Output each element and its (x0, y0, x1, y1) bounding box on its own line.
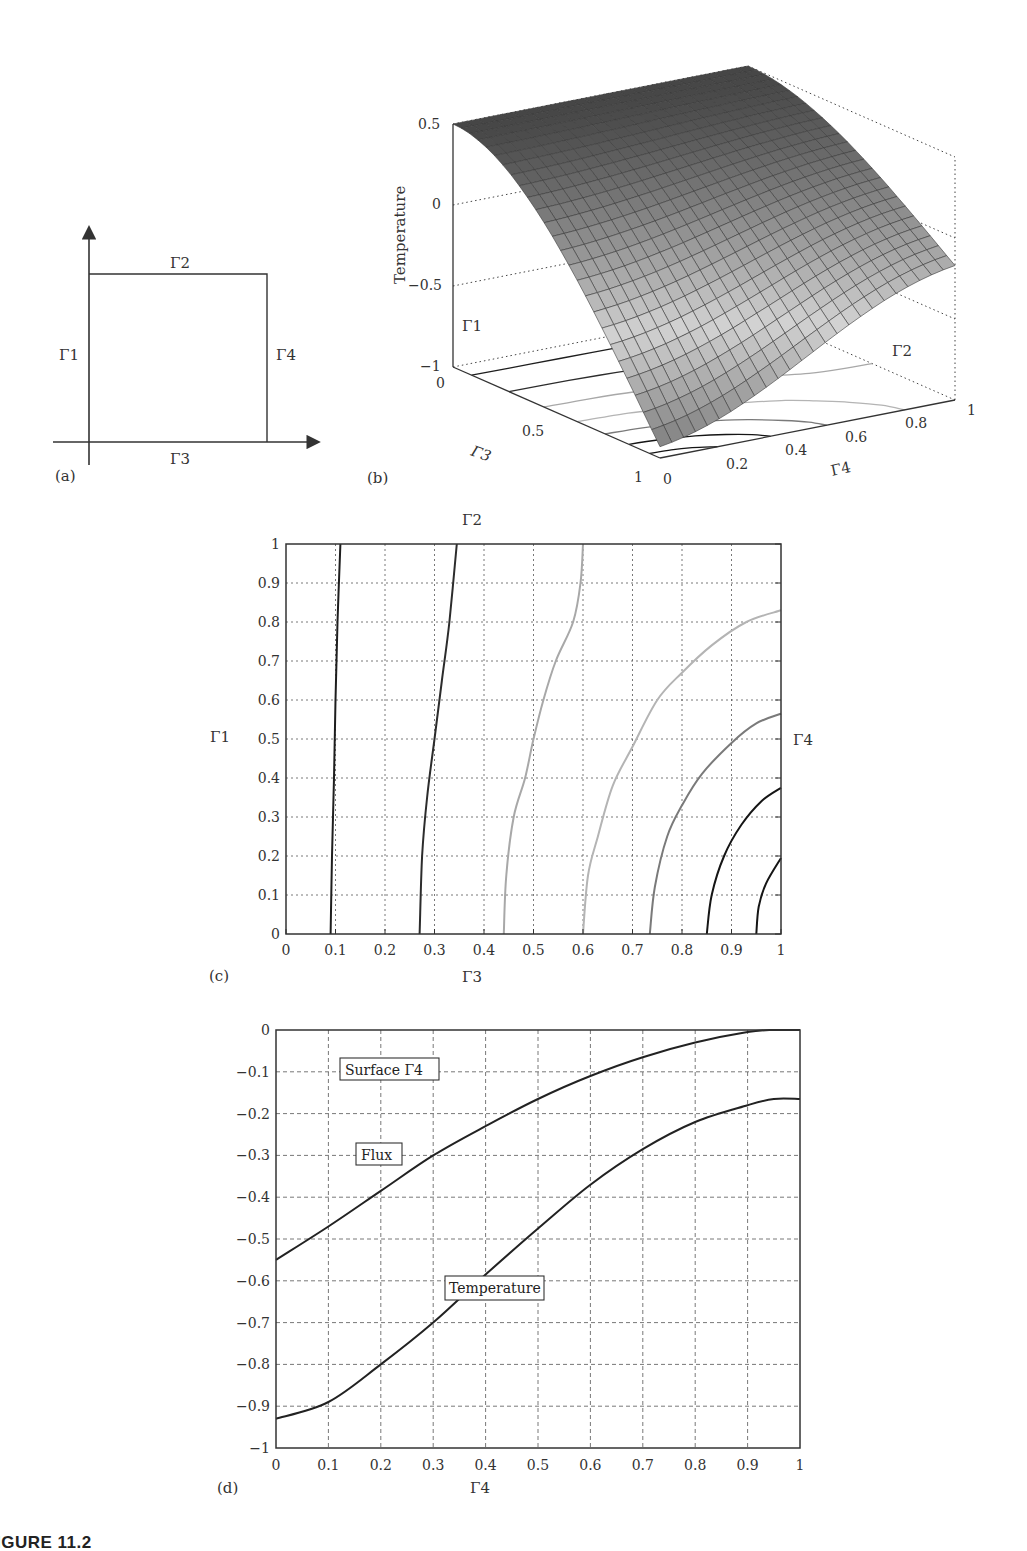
contour-line (756, 858, 781, 934)
g4-tick-3: 0.6 (845, 429, 867, 445)
y-tick-label: −0.8 (236, 1356, 270, 1372)
z-tick-1: 0 (432, 196, 441, 212)
bottom-boundary-label: Γ3 (462, 968, 482, 986)
right-boundary-label: Γ4 (793, 731, 813, 749)
x-tick-label: 0.2 (374, 942, 396, 958)
x-tick-label: 0.1 (317, 1457, 339, 1473)
annotation-temperature: Temperature (445, 1276, 544, 1300)
y-tick-label: 0.5 (258, 731, 280, 747)
y-tick-label: −0.3 (236, 1147, 270, 1163)
panel-b-surface-plot: Temperature 0.5 0 −0.5 −1 0 0.5 1 0 0.2 … (367, 66, 976, 487)
x-tick-label: 0.7 (632, 1457, 654, 1473)
x-tick-label: 0.1 (324, 942, 346, 958)
x-tick-label: 0.5 (522, 942, 544, 958)
series-temperature (276, 1099, 800, 1419)
annotation-surface-text: Surface Γ4 (345, 1062, 423, 1078)
contour-line (707, 788, 781, 934)
left-boundary-label: Γ1 (210, 728, 230, 746)
x-tick-label: 0.7 (621, 942, 643, 958)
boundary-label-bottom: Γ3 (170, 450, 190, 468)
y-tick-label: 0.1 (258, 887, 280, 903)
panel-label-d: (d) (217, 1479, 238, 1497)
y-tick-label: 0 (271, 926, 280, 942)
x-tick-label: 0.6 (579, 1457, 601, 1473)
domain-box (89, 274, 267, 442)
panel-a-domain-sketch: Γ2 Γ1 Γ4 Γ3 (a) (53, 228, 318, 485)
annotation-flux-text: Flux (361, 1147, 392, 1163)
x-tick-label: 0.9 (736, 1457, 758, 1473)
y-tick-label: −0.6 (236, 1273, 270, 1289)
g4-tick-4: 0.8 (905, 415, 927, 431)
g4-tick-0: 0 (663, 471, 672, 487)
figure-caption: IGURE 11.2 (0, 1533, 92, 1551)
g3-tick-1: 0.5 (522, 423, 544, 439)
isotherm-contours (331, 544, 781, 934)
y-tick-label: 0.8 (258, 614, 280, 630)
temperature-surface-mesh (453, 66, 955, 447)
z-tick-3: −1 (420, 358, 441, 374)
x-tick-label: 0 (272, 1457, 281, 1473)
y-tick-label: 0.6 (258, 692, 280, 708)
top-boundary-label: Γ2 (462, 511, 482, 529)
z-tick-0: 0.5 (418, 116, 440, 132)
x-tick-label: 0.3 (422, 1457, 444, 1473)
y-tick-label: −0.2 (236, 1106, 270, 1122)
annotation-surface: Surface Γ4 (340, 1058, 439, 1080)
z-axis-label: Temperature (391, 186, 409, 284)
boundary-label-right: Γ4 (276, 346, 296, 364)
x-tick-label: 0.9 (720, 942, 742, 958)
y-tick-label: −0.4 (236, 1189, 270, 1205)
g4-tick-1: 0.2 (726, 456, 748, 472)
g3-tick-0: 0 (436, 375, 445, 391)
g2-edge-label: Γ2 (892, 342, 912, 360)
annotation-flux: Flux (356, 1143, 402, 1165)
y-tick-label: 0.3 (258, 809, 280, 825)
y-tick-label: 0.2 (258, 848, 280, 864)
g3-axis-label: Γ3 (468, 442, 494, 466)
y-tick-label: −0.9 (236, 1398, 270, 1414)
x-tick-label: 0.8 (671, 942, 693, 958)
x-tick-label: 0.5 (527, 1457, 549, 1473)
y-tick-label: 1 (271, 536, 280, 552)
g4-tick-5: 1 (967, 402, 976, 418)
boundary-label-top: Γ2 (170, 254, 190, 272)
y-tick-label: −0.1 (236, 1064, 270, 1080)
annotation-temperature-text: Temperature (449, 1280, 541, 1296)
x-tick-label: 0 (282, 942, 291, 958)
x-tick-label: 0.8 (684, 1457, 706, 1473)
x-tick-label: 1 (777, 942, 786, 958)
x-tick-label: 0.2 (370, 1457, 392, 1473)
g1-edge-label: Γ1 (462, 317, 482, 335)
x-tick-label: 0.4 (474, 1457, 496, 1473)
panel-c-contour-plot: 00.10.20.30.40.50.60.70.80.9100.10.20.30… (209, 511, 813, 986)
y-tick-label: 0.4 (258, 770, 280, 786)
y-tick-label: −1 (249, 1440, 270, 1456)
x-tick-label: 0.4 (473, 942, 495, 958)
y-tick-label: 0.7 (258, 653, 280, 669)
g4-tick-2: 0.4 (785, 442, 807, 458)
y-tick-label: 0.9 (258, 575, 280, 591)
panel-label-b: (b) (367, 469, 388, 487)
x-tick-label: 0.3 (423, 942, 445, 958)
x-tick-label: 0.6 (572, 942, 594, 958)
x-axis-label: Γ4 (470, 1479, 490, 1497)
z-tick-2: −0.5 (408, 277, 442, 293)
y-tick-label: −0.5 (236, 1231, 270, 1247)
panel-label-a: (a) (55, 467, 76, 485)
x-tick-label: 1 (796, 1457, 805, 1473)
y-tick-label: 0 (261, 1022, 270, 1038)
g4-axis-label: Γ4 (829, 458, 852, 480)
boundary-label-left: Γ1 (59, 346, 79, 364)
panel-d-line-plot: 00.10.20.30.40.50.60.70.80.910−0.1−0.2−0… (217, 1022, 804, 1497)
y-tick-label: −0.7 (236, 1315, 270, 1331)
g3-tick-2: 1 (634, 469, 643, 485)
panel-label-c: (c) (209, 967, 229, 985)
figure-canvas: Γ2 Γ1 Γ4 Γ3 (a) Temperature 0.5 0 −0.5 −… (0, 0, 1027, 1551)
contour-line (650, 714, 781, 934)
